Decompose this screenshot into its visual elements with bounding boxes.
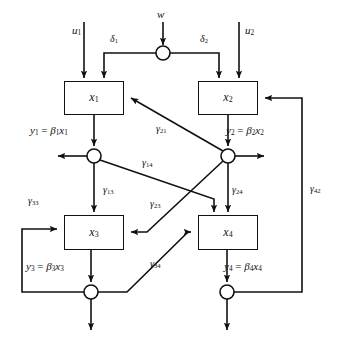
state-block-x4: x4	[198, 215, 258, 250]
junction-w-split	[156, 46, 170, 60]
gain-label-delta2: δ2	[200, 34, 208, 45]
state-block-x3: x3	[64, 215, 124, 250]
block-diagram: x1 x2 x3 x4 u1 w u2 δ1 δ2 y1 = β1x1 y2 =…	[0, 0, 342, 339]
gain-label-gamma21: γ21	[156, 124, 167, 135]
input-label-u2: u2	[245, 25, 254, 38]
state-block-x1: x1	[64, 81, 124, 115]
junction-sum-y3	[84, 285, 98, 299]
diagram-wires	[0, 0, 342, 339]
gain-label-gamma24: γ24	[232, 185, 243, 196]
gain-label-gamma34: γ34	[150, 259, 161, 270]
input-label-w: w	[157, 9, 164, 20]
input-label-u1: u1	[72, 25, 81, 38]
state-block-x3-label: x3	[89, 226, 98, 239]
state-block-x4-label: x4	[223, 226, 232, 239]
output-equation-y4: y4 = β4x4	[224, 261, 262, 274]
gain-label-gamma42: γ42	[310, 184, 321, 195]
gain-label-gamma14: γ14	[142, 158, 153, 169]
gain-label-gamma23: γ23	[150, 199, 161, 210]
gain-label-gamma33: γ33	[28, 196, 39, 207]
output-equation-y2: y2 = β2x2	[226, 125, 264, 138]
output-equation-y1: y1 = β1x1	[30, 125, 68, 138]
state-block-x1-label: x1	[89, 91, 98, 104]
junction-sum-y4	[220, 285, 234, 299]
gain-label-delta1: δ1	[110, 34, 118, 45]
state-block-x2-label: x2	[223, 91, 232, 104]
gain-label-gamma13: γ13	[103, 185, 114, 196]
wire-delta2-to-x2	[170, 53, 219, 78]
state-block-x2: x2	[198, 81, 258, 115]
junction-sum-y2	[221, 149, 235, 163]
output-equation-y3: y3 = β3x3	[26, 261, 64, 274]
junction-sum-y1	[87, 149, 101, 163]
wire-delta1-to-x1	[104, 53, 156, 78]
